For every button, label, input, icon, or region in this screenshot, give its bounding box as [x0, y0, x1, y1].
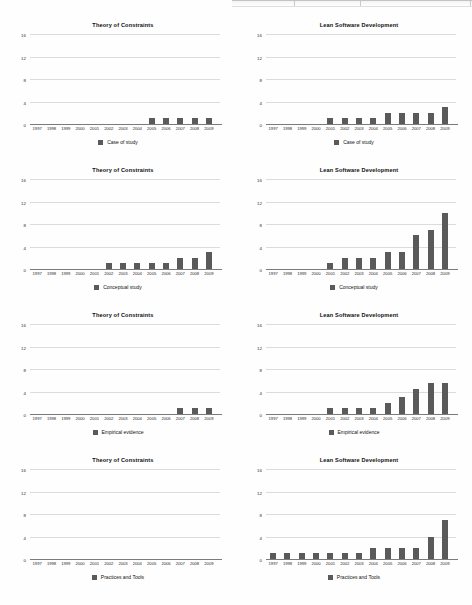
bar [270, 553, 276, 559]
x-axis-tick-label: 1997 [266, 126, 280, 131]
x-axis-tick-label: 2009 [438, 271, 452, 276]
bar [413, 113, 419, 124]
x-axis-tick-label: 2003 [352, 271, 366, 276]
x-axis-tick-label: 2007 [409, 416, 423, 421]
chart-title: Theory of Constraints [10, 312, 236, 319]
x-axis-tick-label: 2007 [409, 561, 423, 566]
bar-slot [116, 179, 130, 269]
bar-slot [309, 179, 323, 269]
y-axis-tick-label: 16 [21, 323, 26, 328]
legend-swatch-icon [329, 430, 334, 435]
bar [206, 408, 212, 414]
x-axis-tick-label: 2001 [87, 561, 101, 566]
chart-title: Lean Software Development [246, 22, 472, 29]
bar-slot [381, 324, 395, 414]
x-axis-tick-label: 2008 [187, 271, 201, 276]
legend-label: Case of study [107, 139, 138, 145]
bar [370, 118, 376, 124]
x-axis-tick-label: 1999 [59, 271, 73, 276]
bar-slot [87, 34, 101, 124]
bar-slot [145, 34, 159, 124]
legend-label: Practices and Tools [101, 574, 144, 580]
bar-slot [423, 324, 437, 414]
bar-slot [438, 324, 452, 414]
legend-swatch-icon [98, 140, 103, 145]
y-axis-tick-label: 16 [21, 33, 26, 38]
x-axis-labels: 1997199819992000200120022003200420052006… [30, 126, 216, 131]
x-axis-tick-label: 2009 [202, 561, 216, 566]
y-axis-tick-label: 8 [24, 513, 26, 518]
x-axis-tick-label: 2006 [159, 126, 173, 131]
y-axis-tick-label: 12 [257, 345, 262, 350]
x-axis-tick-label: 2005 [145, 126, 159, 131]
y-axis-tick-label: 4 [260, 390, 262, 395]
y-axis-tick-label: 4 [24, 100, 26, 105]
x-axis-tick-label: 2002 [338, 126, 352, 131]
scanned-figure-page: Theory of Constraints0481216199719981999… [0, 0, 472, 605]
x-axis-labels: 1997199819992000200120022003200420052006… [266, 271, 452, 276]
y-axis-tick-label: 4 [24, 245, 26, 250]
bar-slot [202, 469, 216, 559]
x-axis-tick-label: 2008 [187, 416, 201, 421]
x-axis-tick-label: 2008 [423, 561, 437, 566]
x-axis-tick-label: 2002 [338, 271, 352, 276]
x-axis-labels: 1997199819992000200120022003200420052006… [266, 561, 452, 566]
bar-slot [352, 34, 366, 124]
bar [399, 252, 405, 269]
bar-slot [366, 179, 380, 269]
x-axis-tick-label: 1999 [295, 416, 309, 421]
plot-area: 0481216 [30, 469, 216, 559]
bar-slot [102, 324, 116, 414]
bar [342, 408, 348, 414]
y-axis-tick-label: 16 [21, 178, 26, 183]
chart-legend: Conceptual study [236, 284, 472, 290]
x-axis-tick-label: 1999 [59, 416, 73, 421]
bar [120, 263, 126, 269]
x-axis-tick-label: 2009 [438, 126, 452, 131]
x-axis-tick-label: 2009 [438, 561, 452, 566]
bar [327, 553, 333, 559]
bar-slot [30, 34, 44, 124]
x-axis-tick-label: 2003 [116, 271, 130, 276]
y-axis-tick-label: 16 [257, 468, 262, 473]
axis-baseline: 0 [30, 559, 222, 560]
x-axis-tick-label: 2002 [102, 126, 116, 131]
legend-label: Practices and Tools [337, 574, 380, 580]
bar-slot [87, 179, 101, 269]
x-axis-tick-label: 2004 [366, 561, 380, 566]
x-axis-tick-label: 2006 [395, 561, 409, 566]
bar-series [30, 324, 216, 414]
y-axis-tick-label: 16 [257, 178, 262, 183]
y-axis-tick-label: 12 [21, 55, 26, 60]
bar [385, 548, 391, 559]
legend-label: Conceptual study [339, 284, 378, 290]
bar [442, 383, 448, 414]
bar-slot [73, 469, 87, 559]
bar-slot [366, 469, 380, 559]
plot-area: 0481216 [30, 179, 216, 269]
x-axis-tick-label: 2003 [352, 561, 366, 566]
bar-slot [295, 34, 309, 124]
bar-slot [187, 34, 201, 124]
bar [342, 553, 348, 559]
x-axis-tick-label: 2000 [73, 561, 87, 566]
legend-swatch-icon [93, 430, 98, 435]
chart-legend: Case of study [0, 139, 236, 145]
x-axis-tick-label: 1997 [30, 416, 44, 421]
x-axis-labels: 1997199819992000200120022003200420052006… [30, 416, 216, 421]
bar-slot [102, 34, 116, 124]
bar [442, 520, 448, 559]
bar-slot [116, 469, 130, 559]
bar [428, 383, 434, 414]
plot-area: 0481216 [30, 324, 216, 414]
bar-slot [395, 324, 409, 414]
bar-slot [145, 469, 159, 559]
bar-slot [280, 34, 294, 124]
chart-legend: Empirical evidence [0, 429, 236, 435]
bar-slot [59, 469, 73, 559]
bar-slot [266, 469, 280, 559]
bar-slot [438, 469, 452, 559]
y-axis-tick-label: 4 [24, 390, 26, 395]
bar-series [266, 34, 452, 124]
bar-slot [280, 179, 294, 269]
